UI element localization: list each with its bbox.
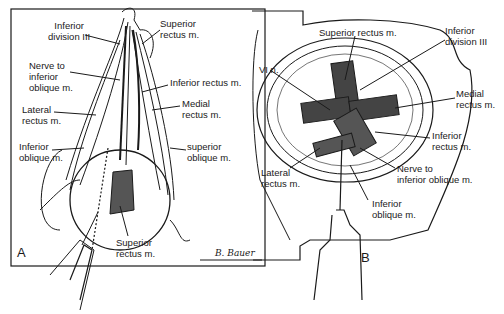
- label-b-vi-nerve: VI n.: [259, 64, 279, 75]
- anatomical-illustration: [0, 0, 504, 314]
- panel-letter-b: B: [361, 250, 370, 265]
- label-b-lateral-rectus: Lateral rectus m.: [261, 167, 300, 189]
- label-b-inferior-rectus: Inferior rectus m.: [432, 130, 471, 152]
- label-a-superior-oblique: superior oblique m.: [187, 141, 231, 163]
- label-a-medial-rectus: Medial rectus m.: [182, 98, 221, 120]
- label-b-medial-rectus: Medial rectus m.: [456, 88, 495, 110]
- label-b-nerve-to-inferior-oblique: Nerve to inferior oblique m.: [397, 163, 473, 185]
- artist-signature: B. Bauer: [215, 248, 255, 258]
- label-b-inferior-oblique: Inferior oblique m.: [372, 198, 416, 220]
- label-b-inferior-division-iii: Inferior division III: [445, 25, 487, 47]
- label-a-nerve-to-inferior-oblique: Nerve to inferior oblique m.: [29, 60, 73, 93]
- label-a-lateral-rectus: Lateral rectus m.: [22, 104, 61, 126]
- label-a-inferior-rectus: Inferior rectus m.: [170, 77, 241, 88]
- label-b-superior-rectus: Superior rectus m.: [319, 27, 397, 38]
- label-a-inferior-oblique: Inferior oblique m.: [19, 141, 63, 163]
- label-a-superior-rectus-bottom: Superior rectus m.: [116, 237, 155, 259]
- panel-letter-a: A: [17, 245, 26, 260]
- label-a-inferior-division-iii: Inferior division III: [48, 20, 90, 42]
- label-a-superior-rectus-top: Superior rectus m.: [160, 18, 199, 40]
